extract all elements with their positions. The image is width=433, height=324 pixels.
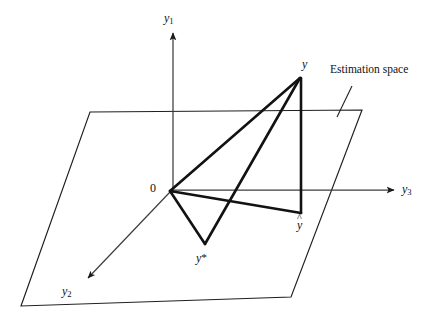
- vector-origin-to-ystar: [170, 191, 205, 244]
- axis-label-y2: y2: [62, 285, 72, 299]
- star-accent-icon: *: [201, 251, 207, 263]
- hat-accent-icon: ^: [297, 213, 302, 223]
- estimation-space-diagram: [0, 0, 433, 324]
- annotation-estimation-space: Estimation space: [330, 64, 408, 76]
- axis-label-y2-subscript: 2: [67, 289, 71, 299]
- annotation-leader-line: [337, 86, 352, 117]
- figure-root: y1 y3 y2 0 y ^y y* Estimation space: [0, 0, 433, 324]
- estimation-space-plane: [21, 110, 362, 306]
- axis-label-y1-subscript: 1: [169, 16, 173, 26]
- axis-label-y3: y3: [402, 183, 412, 197]
- vector-origin-to-y: [170, 78, 300, 191]
- axis-label-y1: y1: [164, 12, 174, 26]
- point-label-yhat: ^y: [297, 219, 302, 231]
- point-label-y: y: [302, 58, 307, 70]
- segment-ystar-to-y: [205, 78, 300, 244]
- axis-label-y3-subscript: 3: [407, 187, 411, 197]
- point-label-ystar: y*: [196, 252, 207, 264]
- axis-y2-line: [88, 192, 170, 278]
- origin-label: 0: [150, 182, 156, 194]
- vector-origin-to-yhat: [170, 191, 301, 213]
